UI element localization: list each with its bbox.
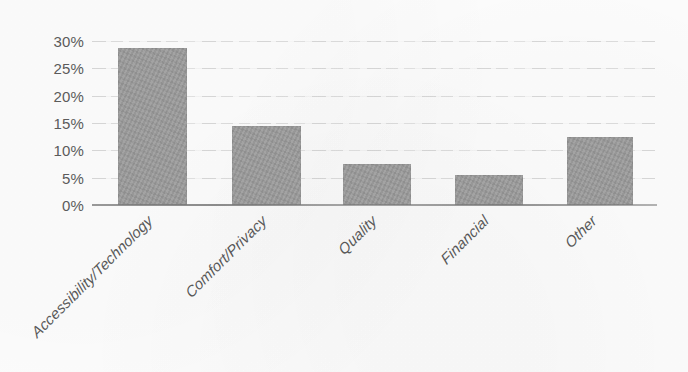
- y-tick-10: 10%: [38, 142, 84, 159]
- x-tick-text-1: Comfort/Privacy: [182, 212, 270, 301]
- y-tick-15: 15%: [38, 115, 84, 132]
- y-tick-20: 20%: [38, 87, 84, 104]
- x-axis-baseline: [92, 204, 657, 206]
- bar-other: [567, 137, 633, 205]
- x-tick-text-4: Other: [562, 212, 600, 252]
- x-tick-label-other: Other: [561, 212, 600, 251]
- y-tick-0: 0%: [38, 197, 84, 214]
- x-tick-text-3: Financial: [437, 212, 491, 268]
- x-tick-text-0: Accessibility/Technology: [28, 212, 155, 341]
- y-tick-25: 25%: [38, 60, 84, 77]
- x-tick-label-comfort-privacy: Comfort/Privacy: [181, 212, 270, 301]
- x-tick-label-accessibility-technology: Accessibility/Technology: [28, 212, 156, 340]
- plot-area: [92, 38, 655, 205]
- bar-accessibility-technology: [118, 48, 187, 205]
- y-tick-5: 5%: [38, 169, 84, 186]
- bar-financial: [455, 175, 523, 205]
- x-tick-label-financial: Financial: [437, 212, 492, 267]
- bar-chart-figure: 30% 25% 20% 15% 10% 5% 0% Accessibility/…: [0, 0, 688, 372]
- gridline-30: [92, 41, 655, 42]
- x-tick-label-quality: Quality: [334, 212, 380, 258]
- y-axis-tick-labels: 30% 25% 20% 15% 10% 5% 0%: [34, 38, 84, 205]
- bar-comfort-privacy: [232, 126, 301, 205]
- y-tick-30: 30%: [38, 33, 84, 50]
- x-tick-text-2: Quality: [335, 212, 380, 258]
- bar-quality: [343, 164, 411, 205]
